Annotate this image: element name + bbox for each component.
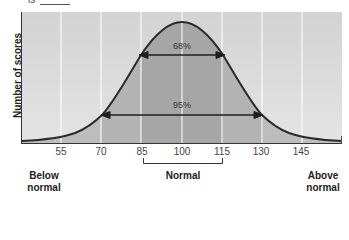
x-tick: 85 [127,146,157,157]
above-line-2: normal [303,182,343,194]
category-below-normal: Below normal [24,170,64,194]
below-line-1: Below [24,170,64,182]
label-95-percent: 95% [162,100,202,110]
x-tick: 55 [46,146,76,157]
x-tick: 100 [167,146,197,157]
y-axis-label: Number of scores [12,26,23,126]
below-line-2: normal [24,182,64,194]
above-line-1: Above [303,170,343,182]
x-tick: 115 [207,146,237,157]
category-normal: Normal [158,170,208,182]
x-tick: 130 [246,146,276,157]
label-68-percent: 68% [162,41,202,51]
x-tick: 145 [286,146,316,157]
category-above-normal: Above normal [303,170,343,194]
normal-bracket [144,158,223,164]
x-tick: 70 [86,146,116,157]
